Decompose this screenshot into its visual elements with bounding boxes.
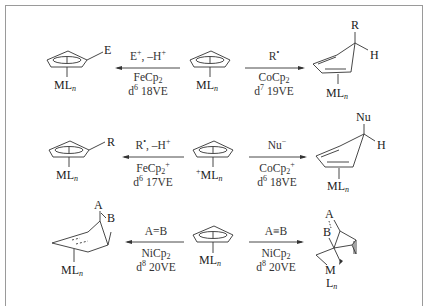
cp-ring-r-substituted [49,141,105,167]
reagent-label-right-2: Nu− [237,138,317,152]
atom-b-left: B [107,212,115,225]
nucleophile-label: Nu [356,111,371,124]
cp-ring-center-3 [193,226,233,253]
ligand-label-center-3: MLn [199,254,221,270]
atom-a-left: A [94,199,103,212]
reagent-label-left-3: A=B [116,224,196,238]
cp-ring-center-1 [190,51,230,77]
electron-count-left-2: d6 17VE [113,175,193,189]
cp-ring-center-2 [193,141,233,167]
bicyclic-ab-adduct [52,211,111,262]
atom-a-right: A [325,208,334,221]
ligand-l-label: Ln [326,277,337,293]
hydrogen-label-2: H [377,139,386,152]
ligand-label-left-1: MLn [54,79,76,95]
atom-b-right: B [323,226,331,239]
diene-nu-h-product [316,124,375,179]
ligand-label-center-2: +MLn [196,169,223,185]
cp-ring-e-substituted [47,51,103,77]
electron-count-right-1: d7 19VE [234,84,314,98]
reagent-label-right-1: R• [234,49,314,63]
reagent-label-left-2: R•, –H+ [113,138,193,152]
electron-count-right-2: d6 18VE [237,175,317,189]
electron-count-right-3: d8 20VE [236,260,316,274]
ligand-label-center-1: MLn [196,79,218,95]
ligand-label-right-1: MLn [326,87,348,103]
reagent-label-right-3: A≡B [236,224,316,238]
ligand-label-left-2: MLn [56,169,78,185]
reagent-label-left-1: E+, –H+ [108,49,188,63]
ligand-label-left-3: MLn [61,264,83,280]
diene-r-h-product [313,32,368,84]
electron-count-left-1: d6 18VE [108,84,188,98]
ligand-label-right-2: MLn [327,180,349,196]
electron-count-left-3: d8 20VE [116,260,196,274]
metallacycle-product [316,220,356,265]
substituent-r-top: R [351,19,359,32]
hydrogen-label-1: H [370,49,379,62]
